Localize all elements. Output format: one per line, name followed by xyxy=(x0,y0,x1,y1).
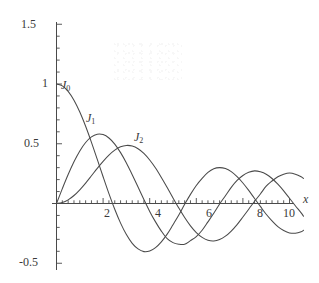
y-axis-ticks xyxy=(57,24,63,263)
curve-label-j2: J2 xyxy=(134,130,143,145)
x-axis-label: x xyxy=(303,192,308,207)
axes-group xyxy=(52,22,294,270)
curve-label-j2-sub: 2 xyxy=(139,136,143,145)
curve-j1 xyxy=(57,134,304,245)
curve-j2 xyxy=(57,145,304,241)
curve-label-j0-sub: 0 xyxy=(66,84,70,93)
x-tick-label-8: 8 xyxy=(257,206,263,221)
curve-label-j1-sub: 1 xyxy=(91,117,95,126)
x-tick-label-2: 2 xyxy=(104,206,110,221)
x-tick-label-10: 10 xyxy=(283,206,295,221)
y-tick-label-0-5: 0.5 xyxy=(24,136,39,151)
curve-label-j1: J1 xyxy=(86,111,95,126)
curves-group xyxy=(57,84,304,252)
chart-figure: 1.5 1 0.5 -0.5 2 4 6 8 10 x J0 J1 J2 xyxy=(0,0,319,283)
y-tick-label-1: 1 xyxy=(42,76,48,91)
bessel-plot-svg xyxy=(0,0,319,283)
x-tick-label-6: 6 xyxy=(206,206,212,221)
curve-label-j0: J0 xyxy=(61,78,70,93)
y-tick-label-1-5: 1.5 xyxy=(21,17,36,32)
curve-j0 xyxy=(57,84,304,252)
y-tick-label-neg-0-5: -0.5 xyxy=(19,255,38,270)
x-tick-label-4: 4 xyxy=(155,206,161,221)
